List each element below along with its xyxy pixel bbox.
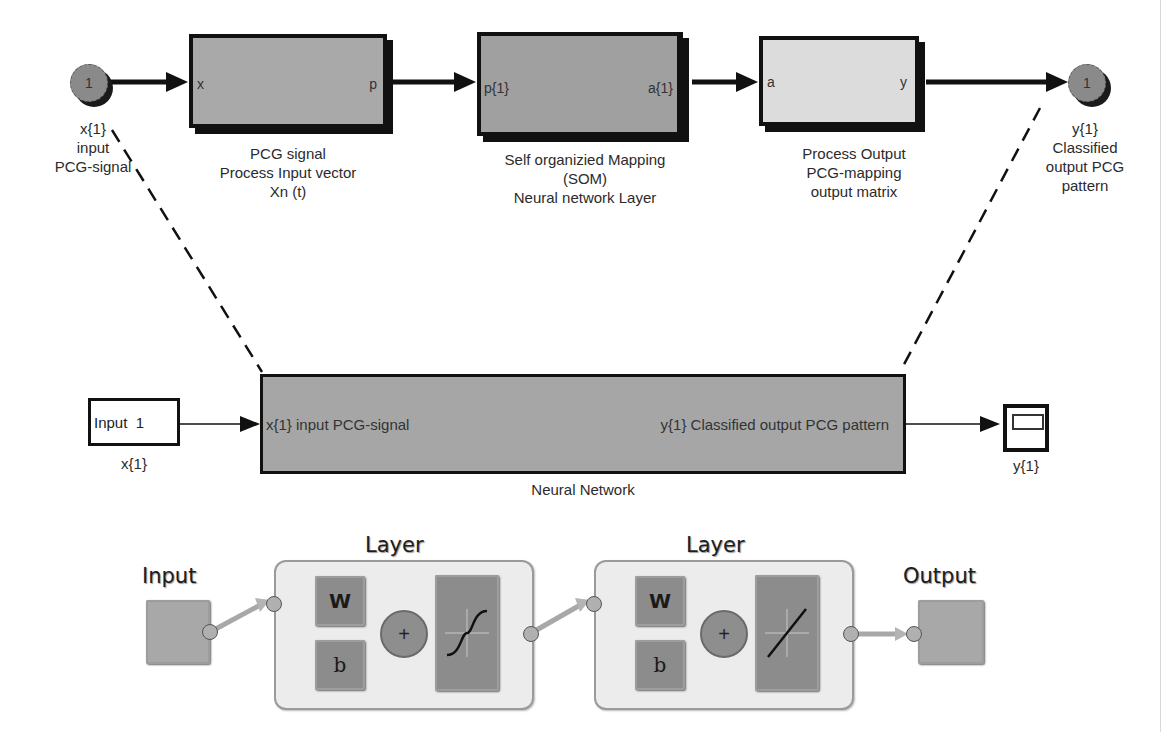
layer1-title: Layer <box>365 533 424 557</box>
network-input-node[interactable] <box>146 600 210 664</box>
network-output-node[interactable] <box>918 600 984 664</box>
purelin-line-icon <box>755 575 819 691</box>
layer2-weight-node[interactable]: W <box>635 576 685 626</box>
layer2-title: Layer <box>686 533 745 557</box>
tansig-curve-icon <box>435 575 499 691</box>
layer2-input-dot <box>586 596 602 612</box>
layer2-bias-node[interactable]: b <box>635 640 685 690</box>
network-input-label: Input <box>142 564 196 588</box>
input-connector-dot <box>202 624 218 640</box>
layer1-transfer-tansig[interactable] <box>435 575 499 691</box>
layer1-output-dot <box>523 626 539 642</box>
layer1-input-dot <box>266 596 282 612</box>
layer2-sum-node[interactable]: + <box>700 610 748 658</box>
output-connector-dot <box>906 626 922 642</box>
layer1-bias-node[interactable]: b <box>315 640 365 690</box>
layer1-weight-node[interactable]: W <box>315 576 365 626</box>
layer1-sum-node[interactable]: + <box>380 610 428 658</box>
network-output-label: Output <box>903 564 976 588</box>
layer2-transfer-purelin[interactable] <box>755 575 819 691</box>
layer2-output-dot <box>843 626 859 642</box>
